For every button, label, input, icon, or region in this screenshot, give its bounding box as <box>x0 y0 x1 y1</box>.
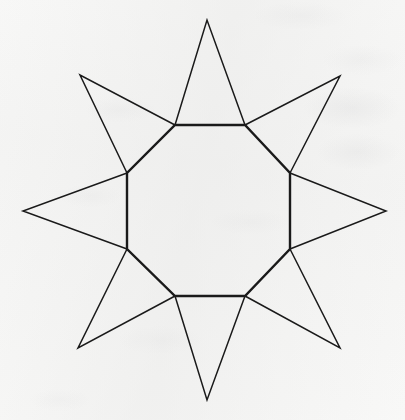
spike-south <box>175 296 245 400</box>
spike-east <box>290 173 386 249</box>
figure-canvas <box>0 0 405 420</box>
spike-group <box>23 20 386 400</box>
spike-northeast <box>245 76 340 173</box>
spike-north <box>175 20 245 125</box>
inner-octagon <box>127 125 290 296</box>
spike-southeast <box>245 249 340 348</box>
spike-northwest <box>80 75 175 173</box>
octagram-figure <box>0 0 405 420</box>
spike-west <box>23 173 127 249</box>
spike-southwest <box>78 249 175 348</box>
